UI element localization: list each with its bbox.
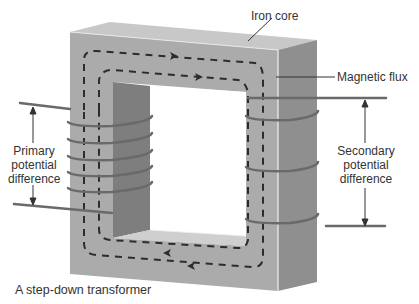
magnetic-flux-label: Magnetic flux	[337, 70, 408, 84]
hole-white	[150, 86, 246, 236]
iron-core-label: Iron core	[251, 9, 298, 23]
primary-pd-label: Primary potential difference	[8, 144, 60, 186]
secondary-pd-label: Secondary potential difference	[334, 144, 398, 186]
figure-caption: A step-down transformer	[15, 283, 151, 297]
core-right-face	[278, 40, 317, 291]
